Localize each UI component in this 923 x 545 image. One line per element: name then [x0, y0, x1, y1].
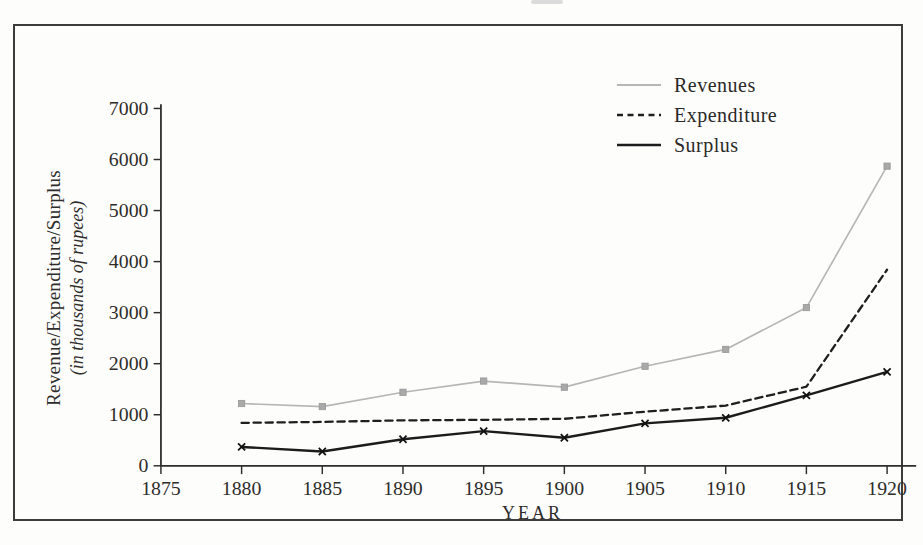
y-tick-label: 4000 [109, 250, 149, 272]
legend-label-surplus: Surplus [674, 134, 739, 157]
x-tick-label: 1915 [787, 477, 827, 499]
x-tick-label: 1895 [464, 477, 504, 499]
legend-label-expenditure: Expenditure [674, 104, 777, 127]
revenues-marker [319, 403, 325, 409]
legend-label-revenues: Revenues [674, 74, 756, 97]
legend-item-surplus: Surplus [616, 130, 777, 160]
y-tick-label: 1000 [109, 403, 149, 425]
x-tick-label: 1900 [545, 477, 585, 499]
revenues-marker [884, 163, 890, 169]
legend-item-expenditure: Expenditure [616, 100, 777, 130]
x-tick-label: 1890 [383, 477, 423, 499]
line-chart: 0100020003000400050006000700018751880188… [13, 24, 923, 545]
revenues-marker [481, 378, 487, 384]
y-axis-label-units: (in thousands of rupees) [66, 201, 89, 376]
axes [161, 104, 916, 465]
revenues-line [242, 166, 887, 406]
x-tick-label: 1880 [222, 477, 262, 499]
surplus-line-swatch [616, 140, 662, 150]
y-tick-label: 5000 [109, 199, 149, 221]
scan-artifact [531, 0, 563, 4]
x-tick-label: 1875 [141, 477, 181, 499]
x-tick-label: 1885 [303, 477, 343, 499]
y-tick-label: 2000 [109, 352, 149, 374]
revenues-marker [803, 304, 809, 310]
legend-item-revenues: Revenues [616, 70, 777, 100]
revenues-marker [642, 363, 648, 369]
revenues-line-swatch [616, 80, 662, 90]
x-tick-label: 1905 [625, 477, 665, 499]
y-tick-label: 7000 [109, 97, 149, 119]
x-axis-label: YEAR [170, 503, 895, 524]
y-tick-label: 6000 [109, 148, 149, 170]
revenues-marker [561, 384, 567, 390]
expenditure-line-swatch [616, 110, 662, 120]
revenues-marker [238, 400, 244, 406]
revenues-marker [400, 389, 406, 395]
x-tick-label: 1910 [706, 477, 746, 499]
chart-frame: 0100020003000400050006000700018751880188… [13, 24, 903, 521]
x-tick-label: 1920 [867, 477, 907, 499]
revenues-marker [723, 346, 729, 352]
y-tick-label: 0 [139, 454, 149, 476]
legend: Revenues Expenditure Surplus [616, 70, 777, 160]
y-tick-label: 3000 [109, 301, 149, 323]
y-axis-label-main: Revenue/Expenditure/Surplus [42, 170, 66, 406]
y-axis-label: Revenue/Expenditure/Surplus (in thousand… [32, 118, 98, 458]
